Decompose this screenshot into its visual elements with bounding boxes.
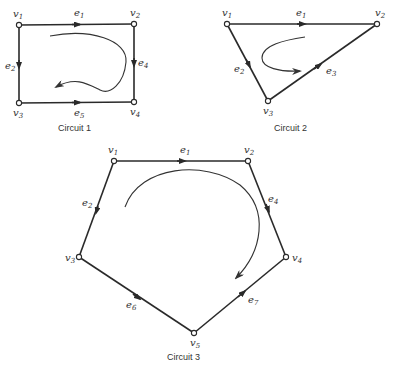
edge-label-e1: e1 [180, 144, 190, 157]
circulation-arrow-icon [262, 37, 305, 71]
arrow-icon [314, 64, 321, 69]
vertex-label-v1: v1 [222, 7, 232, 20]
edge-label-e5: e5 [74, 107, 85, 120]
circuit-diagrams: v1 v2 v3 v4 e1 e2 e4 e5 Circuit 1 v1 v2 … [0, 0, 393, 371]
arrow-icon [96, 206, 98, 213]
edge-e6 [79, 257, 194, 333]
caption-circuit-2: Circuit 2 [274, 123, 307, 133]
vertex-label-v3: v3 [13, 107, 24, 120]
circuit-2: v1 v2 v3 e1 e2 e3 Circuit 2 [222, 7, 386, 133]
vertex-label-v3: v3 [263, 105, 274, 118]
vertex-v4 [131, 99, 136, 104]
arrow-icon [246, 59, 250, 67]
edge-label-e1: e1 [74, 7, 84, 20]
edge-label-e2: e2 [5, 60, 16, 73]
caption-circuit-1: Circuit 1 [58, 123, 91, 133]
vertex-v2 [131, 21, 136, 26]
vertex-v2 [374, 21, 379, 26]
edge-label-e4: e4 [138, 57, 148, 70]
circulation-arrow-icon [125, 170, 259, 278]
vertex-v1 [224, 21, 229, 26]
vertex-v1 [16, 22, 21, 27]
vertex-label-v2: v2 [130, 7, 141, 20]
edge-e4 [248, 161, 286, 257]
vertex-label-v1: v1 [13, 8, 23, 21]
vertex-v1 [111, 158, 116, 163]
vertex-label-v1: v1 [108, 144, 118, 157]
vertex-label-v2: v2 [375, 7, 386, 20]
edge-label-e7: e7 [248, 294, 259, 307]
edge-e3 [268, 24, 377, 101]
edge-label-e2: e2 [82, 197, 93, 210]
arrow-icon [238, 291, 245, 297]
edge-label-e3: e3 [326, 65, 337, 78]
vertex-v3 [265, 98, 270, 103]
circuit-1: v1 v2 v3 v4 e1 e2 e4 e5 Circuit 1 [5, 7, 148, 133]
edge-label-e6: e6 [126, 299, 137, 312]
vertex-label-v5: v5 [190, 337, 201, 350]
vertex-v3 [76, 254, 81, 259]
vertex-label-v4: v4 [292, 252, 302, 265]
edge-label-e2: e2 [234, 63, 245, 76]
circulation-arrow-icon [50, 34, 126, 92]
vertex-label-v2: v2 [244, 144, 255, 157]
vertex-v5 [191, 330, 196, 335]
vertex-v3 [16, 100, 21, 105]
caption-circuit-3: Circuit 3 [167, 352, 200, 362]
vertex-v2 [245, 158, 250, 163]
circuit-3: v1 v2 v3 v4 v5 e1 e2 e4 e6 e7 Circuit 3 [65, 144, 302, 362]
edge-label-e1: e1 [296, 7, 306, 20]
edge-label-e4: e4 [268, 193, 278, 206]
vertex-label-v3: v3 [65, 252, 76, 265]
vertex-v4 [283, 254, 288, 259]
vertex-label-v4: v4 [130, 106, 140, 119]
